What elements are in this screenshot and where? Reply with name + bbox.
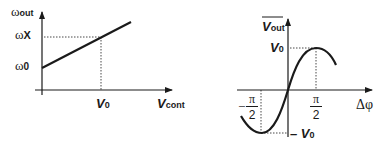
delta-phi-axis-label: Δφ — [356, 98, 373, 112]
vco-line — [42, 22, 131, 68]
v-symbol: V — [270, 40, 279, 55]
out-subscript: out — [271, 23, 285, 33]
v-symbol: V — [157, 96, 166, 111]
pi-numerator: π — [246, 93, 258, 107]
v-symbol: V — [262, 19, 271, 34]
v0-tick-label: V0 — [96, 97, 110, 110]
neg-v-symbol: – V — [290, 126, 310, 141]
omega-symbol: ω — [15, 27, 24, 42]
omega-symbol: ω — [15, 58, 24, 73]
two-denominator: 2 — [246, 107, 258, 121]
diagram-canvas — [0, 0, 380, 145]
neg-v0-tick-label: – V0 — [290, 127, 315, 140]
zero-subscript: 0 — [105, 100, 110, 110]
v0-tick-label-right: V0 — [270, 41, 284, 54]
pi-numerator: π — [310, 93, 322, 107]
zero-subscript: 0 — [310, 130, 315, 140]
out-subscript: out — [20, 8, 34, 18]
v-cont-axis-label: Vcont — [157, 97, 185, 110]
zero-subscript: 0 — [279, 44, 284, 54]
vout-avg-axis-label: Vout — [262, 20, 285, 33]
cont-subscript: cont — [166, 100, 185, 110]
omega-symbol: ω — [11, 4, 20, 19]
x-subscript: X — [24, 29, 31, 41]
pi-half-tick-label: π 2 — [310, 93, 322, 121]
neg-sign: – — [239, 99, 245, 111]
vco-graph — [35, 12, 172, 95]
zero-subscript: 0 — [24, 61, 30, 72]
two-denominator: 2 — [310, 107, 322, 121]
omega-out-label: ωout — [11, 5, 34, 18]
omega-0-label: ω0 — [15, 59, 29, 72]
omega-x-label: ωX — [15, 28, 31, 41]
v-symbol: V — [96, 96, 105, 111]
neg-pi-half-tick-label: π 2 — [246, 93, 258, 121]
